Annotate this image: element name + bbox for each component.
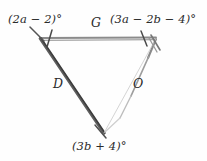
angle-label-top-right: (3a − 2b − 4)° bbox=[110, 14, 196, 26]
side-g-line bbox=[40, 38, 156, 41]
side-o-line bbox=[104, 39, 156, 134]
side-label-o: O bbox=[133, 78, 143, 91]
side-label-d: D bbox=[53, 78, 63, 91]
angle-label-top-left: (2a − 2)° bbox=[8, 14, 62, 26]
triangle-diagram: (2a − 2)° (3a − 2b − 4)° (3b + 4)° G D O bbox=[0, 0, 207, 161]
angle-label-bottom: (3b + 4)° bbox=[72, 141, 127, 153]
leader-line-top-left bbox=[30, 27, 44, 41]
side-label-g: G bbox=[91, 17, 101, 30]
side-d-line bbox=[40, 38, 105, 134]
